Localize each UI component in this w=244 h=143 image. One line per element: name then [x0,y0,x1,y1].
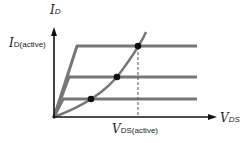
vds-active-label: VDS(active) [112,122,158,136]
x-axis-label: VDS [220,111,240,125]
x-axis-subscript: DS [229,115,240,124]
y-axis-subscript: D [55,7,61,16]
boundary-point-middle [114,74,121,81]
saturation-lines [63,46,197,99]
ohmic-region-lines [54,46,77,117]
y-axis-label: ID [50,3,61,17]
boundary-point-lower [88,96,95,103]
x-axis-arrow-icon [208,114,217,120]
id-active-label: ID(active) [9,36,46,50]
vds-active-symbol: V [112,122,121,136]
vds-active-subscript: DS(active) [121,126,158,135]
x-axis-symbol: V [220,111,229,125]
id-active-subscript: D(active) [14,40,46,49]
y-axis-arrow-icon [51,27,57,36]
boundary-point-upper [135,43,142,50]
